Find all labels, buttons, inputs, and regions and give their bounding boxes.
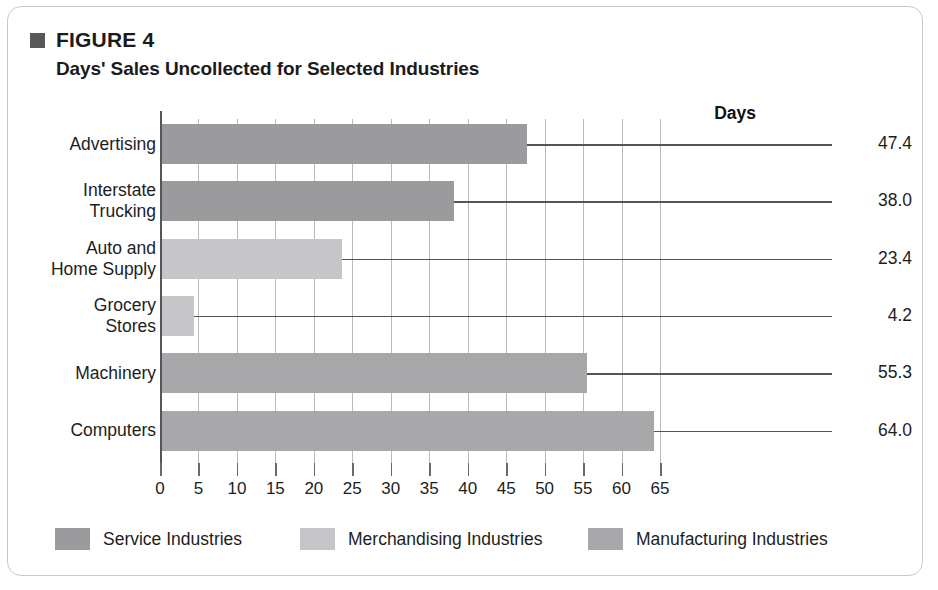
x-tick-label: 55 xyxy=(563,479,603,499)
bar-machinery xyxy=(162,353,587,393)
category-label-advertising: Advertising xyxy=(8,134,156,155)
x-tick-label: 35 xyxy=(409,479,449,499)
x-tick-label: 60 xyxy=(602,479,642,499)
x-tick-label: 10 xyxy=(217,479,257,499)
legend-label: Manufacturing Industries xyxy=(636,529,828,550)
category-label-interstate-trucking: InterstateTrucking xyxy=(8,180,156,222)
value-label-interstate-trucking: 38.0 xyxy=(846,190,912,211)
legend-item-merchandising-industries: Merchandising Industries xyxy=(300,528,543,550)
legend-swatch xyxy=(300,528,335,550)
x-tick-mark xyxy=(506,463,508,476)
bar-interstate-trucking xyxy=(162,181,454,221)
bar-computers xyxy=(162,411,654,451)
x-tick-mark xyxy=(237,463,239,476)
bar-auto-and-home-supply xyxy=(162,239,342,279)
days-header: Days xyxy=(714,103,756,124)
figure-title: Days' Sales Uncollected for Selected Ind… xyxy=(56,58,890,80)
x-tick-mark xyxy=(314,463,316,476)
category-label-grocery-stores: GroceryStores xyxy=(8,295,156,337)
leader-line xyxy=(342,259,832,261)
x-tick-mark xyxy=(545,463,547,476)
category-label-auto-and-home-supply: Auto andHome Supply xyxy=(8,238,156,280)
category-label-line: Stores xyxy=(8,316,156,337)
category-axis-labels: AdvertisingInterstateTruckingAuto andHom… xyxy=(8,119,156,463)
bar-grocery-stores xyxy=(162,296,194,336)
value-label-grocery-stores: 4.2 xyxy=(846,305,912,326)
x-tick-label: 20 xyxy=(294,479,334,499)
x-tick-label: 40 xyxy=(448,479,488,499)
x-tick-mark xyxy=(468,463,470,476)
category-label-line: Interstate xyxy=(8,180,156,201)
x-tick-mark xyxy=(429,463,431,476)
x-tick-mark xyxy=(583,463,585,476)
figure-header: FIGURE 4 Days' Sales Uncollected for Sel… xyxy=(30,27,890,80)
bar-advertising xyxy=(162,124,527,164)
category-label-line: Advertising xyxy=(8,134,156,155)
category-label-line: Computers xyxy=(8,420,156,441)
legend-item-manufacturing-industries: Manufacturing Industries xyxy=(588,528,828,550)
category-label-computers: Computers xyxy=(8,420,156,441)
value-label-machinery: 55.3 xyxy=(846,362,912,383)
leader-line xyxy=(654,431,832,433)
leader-line xyxy=(527,144,832,146)
figure-card: FIGURE 4 Days' Sales Uncollected for Sel… xyxy=(7,6,923,576)
x-tick-mark xyxy=(391,463,393,476)
category-label-line: Auto and xyxy=(8,238,156,259)
category-label-line: Grocery xyxy=(8,295,156,316)
legend-swatch xyxy=(55,528,90,550)
square-bullet-icon xyxy=(30,33,45,48)
value-label-advertising: 47.4 xyxy=(846,133,912,154)
category-label-line: Trucking xyxy=(8,201,156,222)
x-tick-label: 15 xyxy=(255,479,295,499)
x-tick-label: 25 xyxy=(332,479,372,499)
x-tick-mark xyxy=(275,463,277,476)
figure-label-row: FIGURE 4 xyxy=(30,27,890,53)
category-label-line: Machinery xyxy=(8,363,156,384)
chart-legend: Service IndustriesMerchandising Industri… xyxy=(8,519,924,559)
leader-line xyxy=(454,201,832,203)
leader-line xyxy=(587,373,832,375)
value-labels-column: Days 47.438.023.44.255.364.0 xyxy=(660,103,924,483)
legend-label: Service Industries xyxy=(103,529,242,550)
legend-label: Merchandising Industries xyxy=(348,529,543,550)
x-tick-label: 30 xyxy=(371,479,411,499)
x-tick-mark xyxy=(352,463,354,476)
legend-swatch xyxy=(588,528,623,550)
x-tick-label: 45 xyxy=(486,479,526,499)
x-tick-mark xyxy=(160,463,162,476)
x-tick-mark xyxy=(198,463,200,476)
category-label-line: Home Supply xyxy=(8,259,156,280)
chart-area: AdvertisingInterstateTruckingAuto andHom… xyxy=(8,103,924,518)
category-label-machinery: Machinery xyxy=(8,363,156,384)
figure-label: FIGURE 4 xyxy=(56,28,154,52)
x-axis-ticks: 05101520253035404550556065 xyxy=(160,463,680,509)
value-label-computers: 64.0 xyxy=(846,420,912,441)
x-tick-mark xyxy=(622,463,624,476)
plot-area xyxy=(160,119,660,463)
x-tick-label: 50 xyxy=(525,479,565,499)
leader-line xyxy=(194,316,832,318)
x-tick-label: 5 xyxy=(178,479,218,499)
legend-item-service-industries: Service Industries xyxy=(55,528,242,550)
value-label-auto-and-home-supply: 23.4 xyxy=(846,248,912,269)
x-tick-label: 0 xyxy=(140,479,180,499)
